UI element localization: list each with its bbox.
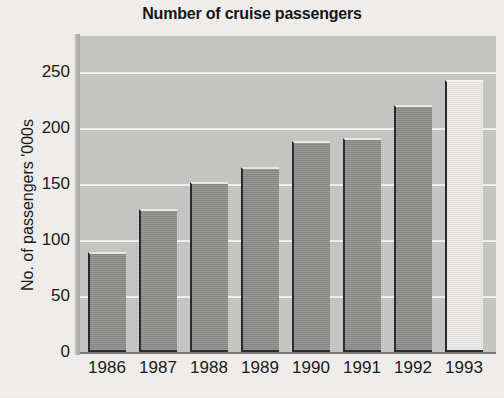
x-tick-1992: 1992: [387, 358, 439, 378]
x-tick-1993: 1993: [438, 358, 490, 378]
x-tick-1986: 1986: [81, 358, 133, 378]
chart-page: Number of cruise passengers 250 200 150 …: [0, 0, 504, 398]
y-axis-ticks: 250 200 150 100 50 0: [0, 0, 504, 398]
x-tick-1990: 1990: [285, 358, 337, 378]
y-tick-100: 100: [8, 230, 70, 250]
x-tick-1991: 1991: [336, 358, 388, 378]
y-axis-title: No. of passengers '000s: [19, 55, 37, 355]
x-tick-1987: 1987: [132, 358, 184, 378]
x-tick-1988: 1988: [183, 358, 235, 378]
y-tick-150: 150: [8, 174, 70, 194]
x-tick-1989: 1989: [234, 358, 286, 378]
y-tick-250: 250: [8, 62, 70, 82]
y-tick-200: 200: [8, 118, 70, 138]
y-tick-0: 0: [8, 342, 70, 362]
y-tick-50: 50: [8, 286, 70, 306]
